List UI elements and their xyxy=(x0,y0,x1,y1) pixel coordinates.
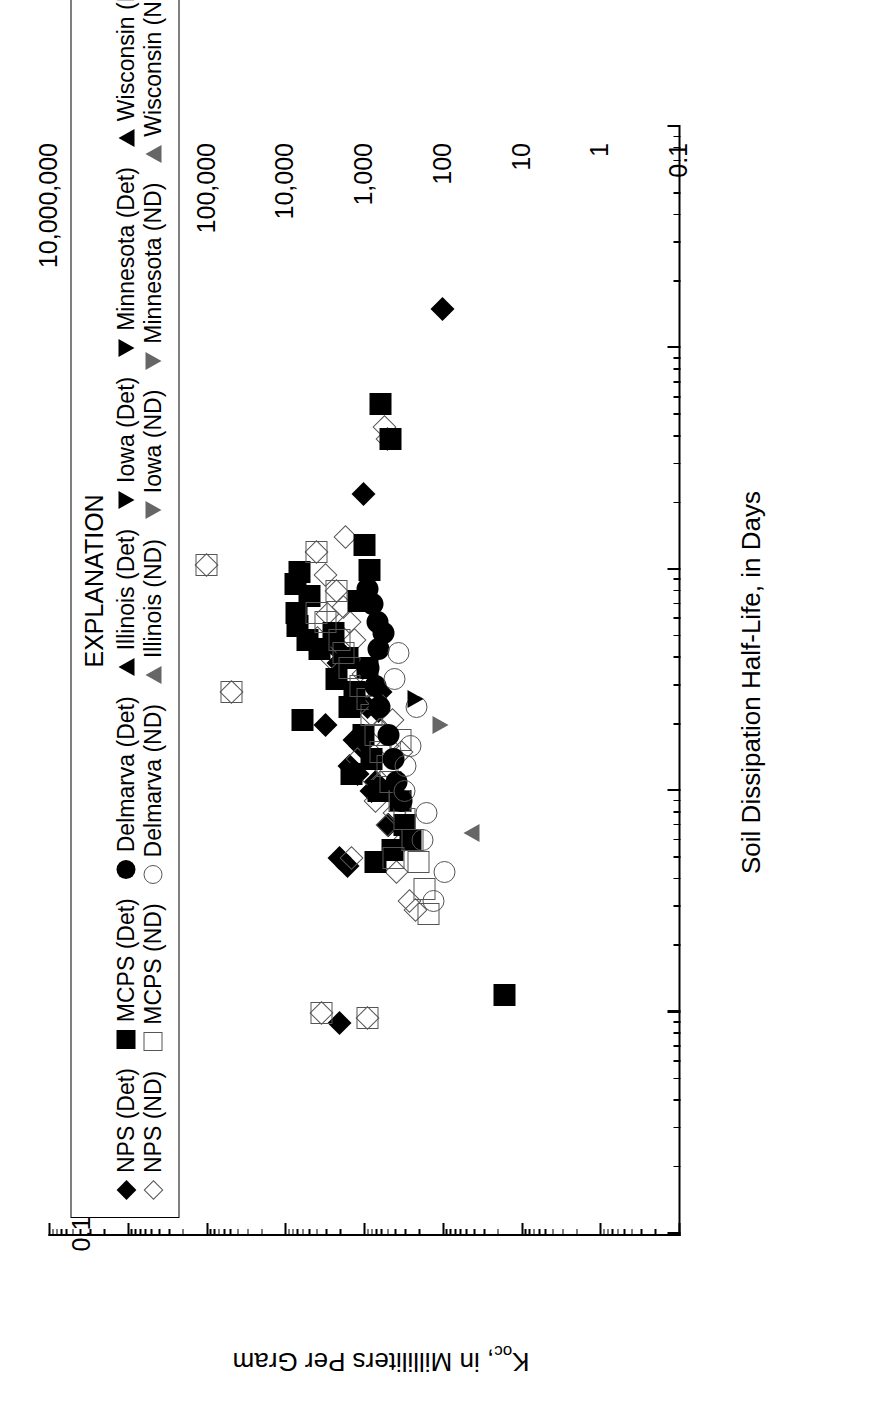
legend-swatch xyxy=(113,1026,139,1052)
legend-title: EXPLANATION xyxy=(79,0,108,1203)
y-tick-minor xyxy=(182,1229,184,1236)
x-tick-minor xyxy=(673,214,680,216)
data-point xyxy=(353,534,375,556)
legend-entry[interactable]: MCPS (ND) xyxy=(139,903,166,1054)
legend-label: Wisconsin (Det) xyxy=(112,0,139,121)
y-tick-minor xyxy=(103,1229,105,1236)
y-tick-minor xyxy=(497,1229,499,1236)
legend-entry[interactable]: Illinois (Det) xyxy=(112,529,139,680)
x-tick-minor xyxy=(673,856,680,858)
y-tick-minor xyxy=(316,1229,318,1236)
data-point xyxy=(308,638,330,660)
data-point xyxy=(368,696,390,718)
legend-label: MCPS (Det) xyxy=(112,898,139,1022)
legend-row: NPS (ND)MCPS (ND)Delmarva (ND)Illinois (… xyxy=(139,0,166,1203)
legend-entry[interactable]: Delmarva (ND) xyxy=(139,704,166,887)
y-tick-minor xyxy=(261,1229,263,1236)
legend-label: Iowa (ND) xyxy=(139,390,166,494)
y-tick-label: 10,000,000 xyxy=(34,143,63,268)
y-tick-minor xyxy=(371,1229,373,1236)
x-tick-minor xyxy=(673,905,680,907)
legend-swatch xyxy=(113,125,139,151)
y-tick-minor xyxy=(449,1229,451,1236)
y-tick-minor xyxy=(394,1229,396,1236)
legend-entry[interactable]: Minnesota (Det) xyxy=(112,167,139,361)
x-tick-minor xyxy=(673,656,680,658)
y-tick-minor xyxy=(465,1229,467,1236)
y-tick-label: 1,000 xyxy=(349,143,378,206)
legend-entry[interactable]: NPS (ND) xyxy=(139,1071,166,1203)
data-point xyxy=(369,393,391,415)
y-tick-minor xyxy=(611,1229,613,1236)
y-tick-minor xyxy=(623,1229,625,1236)
legend-entry[interactable]: Wisconsin (ND) xyxy=(139,0,166,167)
y-tick-minor xyxy=(296,1229,298,1236)
y-tick-minor xyxy=(52,1229,54,1236)
marker-circle-open xyxy=(143,865,162,884)
y-tick-minor xyxy=(380,1229,382,1236)
legend-entry[interactable]: Iowa (ND) xyxy=(139,390,166,524)
legend: EXPLANATION NPS (Det)MCPS (Det)Delmarva … xyxy=(70,0,179,1218)
y-tick-major xyxy=(442,1223,444,1236)
y-tick-minor xyxy=(302,1229,304,1236)
data-point xyxy=(393,780,415,802)
legend-swatch xyxy=(140,348,166,374)
marker-triangle-down-open xyxy=(145,352,161,370)
data-point xyxy=(433,861,455,883)
legend-entry[interactable]: Minnesota (ND) xyxy=(139,183,166,374)
legend-entry[interactable]: Iowa (Det) xyxy=(112,377,139,513)
x-tick-minor xyxy=(673,396,680,398)
legend-label: Minnesota (Det) xyxy=(112,167,139,331)
data-point xyxy=(377,724,399,746)
y-tick-minor xyxy=(473,1229,475,1236)
y-tick-major xyxy=(521,1223,523,1236)
y-tick-minor xyxy=(292,1229,294,1236)
legend-entry[interactable]: Delmarva (Det) xyxy=(112,696,139,882)
legend-label: Iowa (Det) xyxy=(112,377,139,483)
legend-entry[interactable]: Wisconsin (Det) xyxy=(112,0,139,151)
x-tick-minor xyxy=(673,136,680,138)
marker-triangle-up-open xyxy=(145,666,161,684)
y-tick-minor xyxy=(445,1229,447,1236)
x-tick-minor xyxy=(673,241,680,243)
y-axis-title: Koc, in Milliliters Per Gram xyxy=(66,1341,696,1376)
legend-label: NPS (Det) xyxy=(112,1068,139,1173)
x-tick-minor xyxy=(673,502,680,504)
y-tick-label: 100,000 xyxy=(191,143,220,233)
y-tick-minor xyxy=(483,1229,485,1236)
legend-entry[interactable]: MCPS (Det) xyxy=(112,898,139,1052)
y-tick-major xyxy=(363,1223,365,1236)
y-tick-minor xyxy=(130,1229,132,1236)
legend-swatch xyxy=(113,335,139,361)
x-tick-minor xyxy=(673,1060,680,1062)
y-tick-minor xyxy=(552,1229,554,1236)
y-tick-minor xyxy=(418,1229,420,1236)
y-tick-minor xyxy=(454,1229,456,1236)
y-tick-minor xyxy=(387,1229,389,1236)
legend-swatch xyxy=(113,487,139,513)
y-tick-minor xyxy=(65,1229,67,1236)
y-tick-major xyxy=(599,1223,601,1236)
data-point xyxy=(383,668,405,690)
x-tick-minor xyxy=(673,1099,680,1101)
legend-entry[interactable]: NPS (Det) xyxy=(112,1068,139,1203)
legend-label: Illinois (Det) xyxy=(112,529,139,650)
data-point xyxy=(399,735,421,757)
y-tick-minor xyxy=(209,1229,211,1236)
x-tick-minor xyxy=(673,280,680,282)
y-tick-minor xyxy=(654,1229,656,1236)
y-tick-minor xyxy=(308,1229,310,1236)
y-tick-major xyxy=(206,1223,208,1236)
y-tick-major xyxy=(678,1223,680,1236)
marker-triangle-down-open xyxy=(145,501,161,519)
data-point xyxy=(351,482,375,506)
y-tick-minor xyxy=(544,1229,546,1236)
marker-triangle-up-filled xyxy=(118,658,134,676)
legend-entry[interactable]: Illinois (ND) xyxy=(139,539,166,688)
data-point xyxy=(432,716,448,734)
data-point xyxy=(493,984,515,1006)
x-tick-minor xyxy=(673,578,680,580)
legend-body: NPS (Det)MCPS (Det)Delmarva (Det)Illinoi… xyxy=(112,0,166,1203)
y-tick-minor xyxy=(528,1229,530,1236)
y-tick-minor xyxy=(139,1229,141,1236)
